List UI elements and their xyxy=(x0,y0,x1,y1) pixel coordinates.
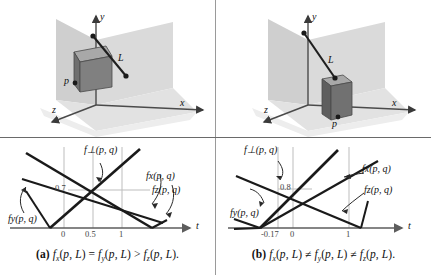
caption-a: (a) fx(p, L) = fy(p, L) > fz(p, L). xyxy=(0,248,215,263)
leader-arrow-f-y-a xyxy=(21,187,26,193)
segment-L-endpoint-top xyxy=(301,30,306,35)
curve-label-f-y-a: fy(p, q) xyxy=(8,213,37,224)
tick-label-t-1-b: 1 xyxy=(346,229,350,239)
curve-label-f-z-b: fz(p, q) xyxy=(364,184,392,195)
curve-label-f-perp-a: f⊥(p, q) xyxy=(84,144,117,155)
curve-f-y-b xyxy=(234,219,260,228)
box-front-face xyxy=(80,56,112,92)
curve-label-f-x-b: fx(p, q) xyxy=(362,163,391,174)
scene-3d-b xyxy=(216,0,431,137)
curve-label-f-x-a: fx(p, q) xyxy=(146,170,175,181)
caption-label-a: (a) xyxy=(36,248,50,260)
tick-label-t-05-a: 0.5 xyxy=(85,229,96,239)
box-left-face xyxy=(322,79,331,120)
leader-f-z-b xyxy=(342,193,364,211)
value-label-0.7-a: 0.7 xyxy=(55,183,66,193)
tick-label-t-0-a: 0 xyxy=(61,229,65,239)
leader-arrow-f-x-a xyxy=(152,203,158,209)
segment-L-endpoint-top xyxy=(90,33,95,38)
curve-f-y-tail-b xyxy=(234,228,260,229)
curve-label-f-y-b: fy(p, q) xyxy=(230,207,259,218)
curve-label-f-perp-b: f⊥(p, q) xyxy=(244,144,277,155)
caption-text-b: fx(p, L) ≠ fy(p, L) ≠ fz(p, L). xyxy=(269,248,395,260)
axis-label-x-a: x xyxy=(180,97,184,108)
caption-label-b: (b) xyxy=(252,248,266,260)
value-label-0.8-b: 0.8 xyxy=(280,182,291,192)
tick-label-t-1-a: 1 xyxy=(119,229,123,239)
caption-b: (b) fx(p, L) ≠ fy(p, L) ≠ fz(p, L). xyxy=(216,248,431,263)
tick-label-t--017-b: -0.17 xyxy=(261,229,279,239)
panel-divider-horizontal xyxy=(0,137,431,138)
segment-label-L-b: L xyxy=(328,54,334,65)
point-label-p-a: p xyxy=(64,75,69,86)
curve-f-z-tail-b xyxy=(361,201,368,228)
axis-label-y-a: y xyxy=(100,11,104,22)
curve-label-f-z-a: fz(p, q) xyxy=(152,184,180,195)
figure-container: y x z p L xyxy=(0,0,431,275)
plot-2d-a xyxy=(0,141,215,241)
axis-label-z-b: z xyxy=(264,104,268,115)
segment-L-endpoint-bottom xyxy=(332,75,337,80)
scene-3d-a xyxy=(0,0,215,137)
leader-f-y-b xyxy=(250,189,264,203)
caption-text-a: fx(p, L) = fy(p, L) > fz(p, L). xyxy=(53,248,179,260)
segment-label-L-a: L xyxy=(118,52,124,63)
tick-label-t-0-b: 0 xyxy=(290,229,294,239)
point-p-marker xyxy=(73,81,78,86)
segment-L-endpoint-bottom xyxy=(123,73,128,78)
curve-f-z-b xyxy=(236,176,361,228)
box-front-face xyxy=(331,82,352,120)
axis-label-y-b: y xyxy=(312,11,316,22)
plot-2d-b xyxy=(216,141,431,241)
point-label-p-b: p xyxy=(332,118,337,129)
axis-label-x-b: x xyxy=(392,97,396,108)
curve-f-perp-b xyxy=(260,150,338,228)
axis-label-z-a: z xyxy=(52,104,56,115)
axis-label-t-a: t xyxy=(196,220,199,231)
axis-label-t-b: t xyxy=(408,220,411,231)
